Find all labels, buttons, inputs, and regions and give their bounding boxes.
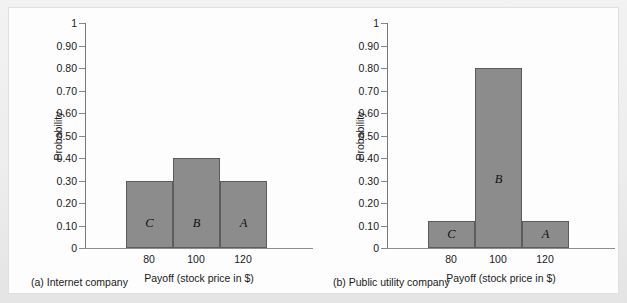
bar-a-b: A bbox=[522, 221, 569, 248]
bar-label: C bbox=[429, 227, 474, 242]
bars-b: C B A bbox=[387, 23, 615, 249]
bar-a-a: A bbox=[220, 181, 267, 249]
y-tick-label: 0.80 bbox=[57, 63, 77, 74]
bar-c-a: C bbox=[126, 181, 173, 249]
bar-label: B bbox=[174, 216, 219, 231]
y-tick-label: 0 bbox=[71, 243, 77, 254]
y-tick-label: 0.10 bbox=[57, 220, 77, 231]
bar-label: A bbox=[523, 227, 568, 242]
bar-c-b: C bbox=[428, 221, 475, 248]
y-tick-label: 0.90 bbox=[359, 40, 379, 51]
figure-page: Probability 1 0.90 0.80 bbox=[9, 8, 618, 293]
bar-b-b: B bbox=[475, 68, 522, 248]
y-tick-label: 0.60 bbox=[359, 108, 379, 119]
y-tick-label: 1 bbox=[373, 18, 379, 29]
y-tick-label: 0.50 bbox=[57, 130, 77, 141]
y-tick-label: 0.20 bbox=[359, 198, 379, 209]
plot-area-b: Probability 1 0.90 0.80 bbox=[387, 23, 615, 249]
y-tick-label: 0.90 bbox=[57, 40, 77, 51]
bars-a: C B A bbox=[85, 23, 313, 249]
y-tick-label: 0.30 bbox=[57, 175, 77, 186]
y-tick-label: 0.70 bbox=[359, 85, 379, 96]
panel-caption-a: (a) Internet company bbox=[31, 276, 128, 288]
y-tick-label: 0.80 bbox=[359, 63, 379, 74]
y-tick-label: 0 bbox=[373, 243, 379, 254]
y-tick-label: 0.60 bbox=[57, 108, 77, 119]
bar-label: C bbox=[127, 216, 172, 231]
chart-panel-a: Probability 1 0.90 0.80 bbox=[23, 8, 323, 293]
x-tick-label: 80 bbox=[445, 253, 457, 265]
figure-root: Probability 1 0.90 0.80 bbox=[0, 0, 627, 303]
x-tick-label: 80 bbox=[143, 253, 155, 265]
y-tick-label: 0.50 bbox=[359, 130, 379, 141]
y-tick-label: 0.30 bbox=[359, 175, 379, 186]
panel-caption-b: (b) Public utility company bbox=[333, 276, 450, 288]
x-tick-label: 100 bbox=[187, 253, 205, 265]
y-tick-label: 0.70 bbox=[57, 85, 77, 96]
chart-panel-b: Probability 1 0.90 0.80 bbox=[325, 8, 618, 293]
plot-area-a: Probability 1 0.90 0.80 bbox=[85, 23, 313, 249]
y-tick-label: 0.10 bbox=[359, 220, 379, 231]
bar-label: B bbox=[476, 172, 521, 187]
y-tick-label: 0.40 bbox=[57, 153, 77, 164]
x-tick-label: 120 bbox=[536, 253, 554, 265]
y-tick-label: 0.40 bbox=[359, 153, 379, 164]
bar-b-a: B bbox=[173, 158, 220, 248]
x-tick-label: 100 bbox=[489, 253, 507, 265]
y-tick-label: 0.20 bbox=[57, 198, 77, 209]
x-tick-label: 120 bbox=[234, 253, 252, 265]
bar-label: A bbox=[221, 216, 266, 231]
y-tick-label: 1 bbox=[71, 18, 77, 29]
